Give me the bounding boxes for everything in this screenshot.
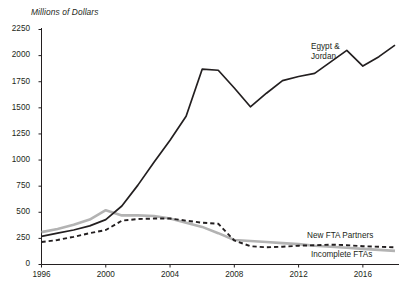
series-line-egypt-jordan [42, 45, 396, 236]
series-label-incomplete-ftas: Incomplete FTAs [311, 250, 372, 260]
axis-lines [42, 28, 400, 265]
series-label-new-fta-partners: New FTA Partners [307, 231, 373, 241]
series-label-egypt-jordan: Egypt & Jordan [311, 42, 340, 61]
plot-area [0, 0, 402, 286]
line-chart: Millions of Dollars 02505007501000125015… [0, 0, 402, 286]
series-paths [42, 45, 396, 251]
